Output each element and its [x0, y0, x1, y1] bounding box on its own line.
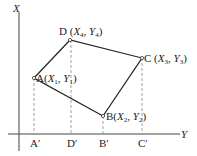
proj-label-c: C′ — [138, 137, 148, 149]
axis-label-x: X — [12, 2, 21, 14]
coordinate-diagram: X Y A(X1, Y1) D (X4, Y4) C (X3, Y3) B(X2… — [0, 0, 197, 156]
point-label-a: A(X1, Y1) — [36, 72, 77, 86]
point-label-d: D (X4, Y4) — [59, 25, 103, 39]
proj-label-b: B′ — [99, 137, 109, 149]
point-label-b: B(X2, Y2) — [106, 110, 146, 124]
axis-label-y: Y — [181, 128, 189, 140]
proj-label-d: D′ — [67, 137, 77, 149]
proj-label-a: A′ — [30, 137, 40, 149]
point-label-c: C (X3, Y3) — [144, 52, 187, 66]
